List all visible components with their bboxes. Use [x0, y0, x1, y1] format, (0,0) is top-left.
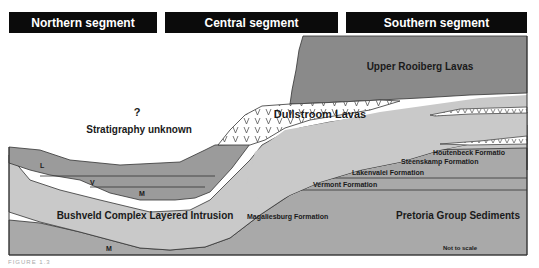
steenskamp-label: Steenskamp Formation — [401, 158, 478, 166]
vermont-label: Vermont Formation — [313, 181, 377, 188]
houtenbeck-label: Houtenbeck Formatio — [433, 149, 505, 156]
dullstroom-label: Dullstroom Lavas — [274, 108, 366, 120]
upper-rooiberg-label: Upper Rooiberg Lavas — [367, 61, 474, 72]
question-mark-label: ? — [134, 106, 141, 118]
lakenvalei-label: Lakenvalei Formation — [352, 169, 424, 176]
bushveld-label: Bushveld Complex Layered Intrusion — [57, 210, 234, 221]
figure-caption: FIGURE 1.3 — [8, 259, 51, 265]
zone-v-label: V — [90, 179, 95, 186]
pretoria-label: Pretoria Group Sediments — [396, 210, 520, 221]
magaliesburg-label: Magaliesburg Formation — [247, 213, 328, 221]
not-to-scale-label: Not to scale — [443, 245, 478, 251]
zone-m-lower-label: M — [106, 245, 112, 252]
zone-l-label: L — [40, 162, 45, 169]
zone-m-upper-label: M — [139, 190, 145, 197]
geological-cross-section: ? Stratigraphy unknown Upper Rooiberg La… — [0, 0, 539, 268]
stratigraphy-unknown-label: Stratigraphy unknown — [86, 124, 192, 135]
